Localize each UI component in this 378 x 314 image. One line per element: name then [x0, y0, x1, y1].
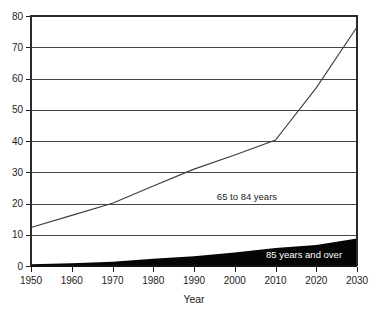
x-axis-tick-label: 1950	[20, 275, 43, 286]
x-axis-tick-label: 1980	[142, 275, 165, 286]
x-axis-tick-marks	[32, 267, 358, 272]
x-axis-tick-label: 1960	[61, 275, 84, 286]
y-axis-tick-label: 40	[12, 136, 24, 147]
x-axis-tick-label: 2020	[305, 275, 328, 286]
y-axis-tick-label: 50	[12, 104, 24, 115]
y-axis-tick-label: 0	[17, 261, 23, 272]
y-axis-tick-labels: 01020304050607080	[12, 11, 24, 272]
series-annotation-85-and-over: 85 years and over	[266, 249, 342, 260]
y-axis-tick-label: 10	[12, 229, 24, 240]
y-axis-tick-label: 20	[12, 198, 24, 209]
x-axis-tick-label: 2030	[346, 275, 369, 286]
chart-canvas: 01020304050607080 1950196019701980199020…	[0, 0, 378, 314]
x-axis-tick-label: 1970	[101, 275, 124, 286]
population-projection-chart: 01020304050607080 1950196019701980199020…	[0, 0, 378, 314]
x-axis-tick-label: 2010	[264, 275, 287, 286]
y-axis-tick-label: 70	[12, 42, 24, 53]
y-axis-tick-label: 30	[12, 167, 24, 178]
x-axis-title: Year	[183, 293, 205, 305]
x-axis-tick-label: 2000	[224, 275, 247, 286]
x-axis-tick-labels: 195019601970198019902000201020202030	[20, 275, 369, 286]
series-annotation-65-to-84: 65 to 84 years	[217, 191, 277, 202]
x-axis-tick-label: 1990	[183, 275, 206, 286]
y-axis-tick-label: 80	[12, 11, 24, 22]
y-axis-tick-label: 60	[12, 73, 24, 84]
